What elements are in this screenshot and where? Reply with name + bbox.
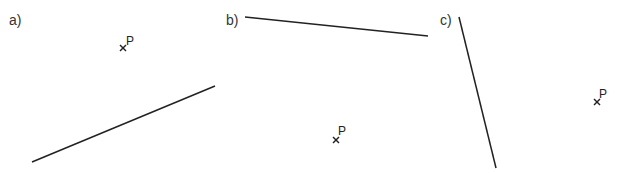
- panel-a-label: a): [9, 13, 21, 27]
- panel-a-point-label: P: [126, 35, 134, 47]
- diagram-canvas: [0, 0, 625, 173]
- panel-b-point-label: P: [338, 125, 346, 137]
- panel-c-label: c): [440, 13, 452, 27]
- panel-b-line: [245, 17, 428, 36]
- panel-a-line: [32, 86, 215, 162]
- panel-c-point-label: P: [599, 88, 607, 100]
- panel-b-label: b): [226, 13, 238, 27]
- panel-c-line: [459, 17, 496, 168]
